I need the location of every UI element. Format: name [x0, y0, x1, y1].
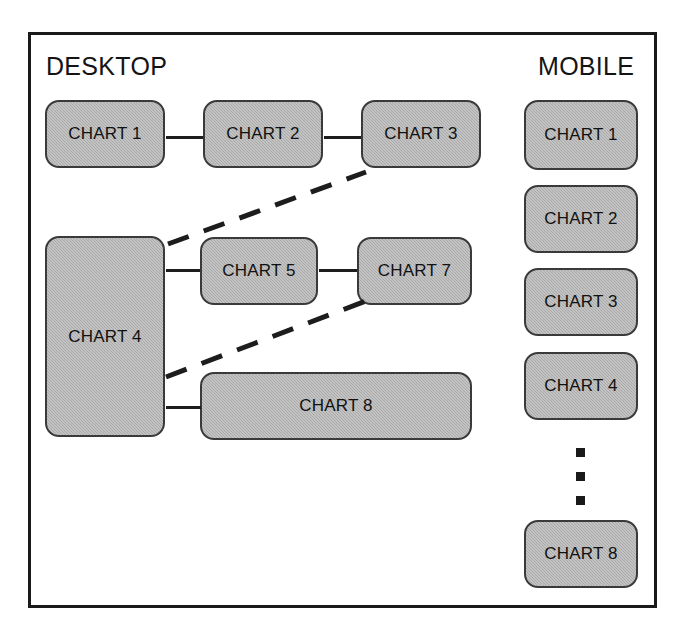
- connector-chart7-in: [338, 269, 357, 272]
- connector-chart3-in: [343, 136, 361, 139]
- mobile-chart-8-label: CHART 8: [544, 544, 618, 564]
- desktop-chart-8-label: CHART 8: [299, 396, 373, 416]
- desktop-chart-3-label: CHART 3: [384, 124, 458, 144]
- connector-chart2-in: [185, 136, 203, 139]
- desktop-chart-7-label: CHART 7: [378, 261, 452, 281]
- connector-chart1-out: [166, 136, 185, 139]
- desktop-chart-1-box[interactable]: CHART 1: [45, 100, 165, 168]
- mobile-chart-1-label: CHART 1: [544, 125, 618, 145]
- mobile-chart-2-box[interactable]: CHART 2: [524, 185, 638, 253]
- desktop-chart-5-label: CHART 5: [222, 261, 296, 281]
- connector-chart4-out-top: [166, 269, 185, 272]
- desktop-chart-4-label: CHART 4: [68, 327, 142, 347]
- connector-chart4-out-bottom: [166, 406, 184, 409]
- mobile-chart-3-box[interactable]: CHART 3: [524, 268, 638, 336]
- connector-chart5-out: [319, 269, 338, 272]
- desktop-chart-4-box[interactable]: CHART 4: [45, 236, 165, 437]
- column-title-desktop: DESKTOP: [46, 52, 167, 81]
- desktop-chart-7-box[interactable]: CHART 7: [357, 237, 472, 305]
- mobile-chart-2-label: CHART 2: [544, 209, 618, 229]
- mobile-chart-3-label: CHART 3: [544, 292, 618, 312]
- diagram-canvas: DESKTOP MOBILE CHART 1 CHART 2 CHART 3 C…: [0, 0, 678, 638]
- desktop-chart-1-label: CHART 1: [68, 124, 142, 144]
- connector-chart2-out: [324, 136, 343, 139]
- mobile-chart-1-box[interactable]: CHART 1: [524, 100, 638, 170]
- connector-chart8-in: [184, 406, 201, 409]
- desktop-chart-2-label: CHART 2: [226, 124, 300, 144]
- mobile-chart-4-box[interactable]: CHART 4: [524, 352, 638, 420]
- desktop-chart-8-box[interactable]: CHART 8: [200, 372, 472, 440]
- ellipsis-dot-2: [576, 472, 585, 481]
- mobile-chart-4-label: CHART 4: [544, 376, 618, 396]
- ellipsis-dot-1: [576, 448, 585, 457]
- connector-chart5-in: [185, 269, 200, 272]
- column-title-mobile: MOBILE: [538, 52, 634, 81]
- desktop-chart-2-box[interactable]: CHART 2: [203, 100, 323, 168]
- mobile-chart-8-box[interactable]: CHART 8: [524, 520, 638, 588]
- ellipsis-dot-3: [576, 496, 585, 505]
- desktop-chart-3-box[interactable]: CHART 3: [361, 100, 481, 168]
- desktop-chart-5-box[interactable]: CHART 5: [200, 237, 318, 305]
